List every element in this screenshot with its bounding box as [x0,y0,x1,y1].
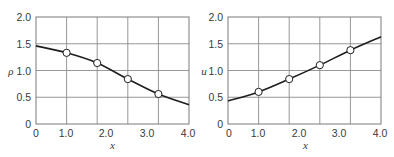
data-point-marker [316,62,323,69]
y-tick-label: 2.0 [208,11,223,23]
figure: 00.51.01.52.0ρ01.02.03.04.0x 00.51.01.52… [0,0,394,157]
data-curve [36,46,189,105]
data-point-marker [94,59,101,66]
x-axis-label: x [109,139,115,151]
data-point-marker [286,75,293,82]
u-vs-x-chart: 00.51.01.52.0u01.02.03.04.0x [201,11,387,151]
x-tick-label: 0 [226,127,232,139]
y-tick-label: 0.5 [208,91,223,103]
x-tick-label: 0 [33,127,39,139]
y-tick-label: 0 [25,118,31,130]
data-point-marker [155,90,162,97]
data-curve [228,37,381,101]
y-axis-label: ρ [7,65,13,77]
x-tick-label: 4.0 [181,127,196,139]
y-tick-label: 2.0 [16,11,31,23]
y-tick-label: 0 [217,118,223,130]
x-tick-label: 2.0 [99,127,114,139]
data-point-marker [255,88,262,95]
x-tick-label: 3.0 [140,127,155,139]
x-tick-label: 1.0 [251,127,266,139]
x-tick-label: 4.0 [373,127,388,139]
y-tick-label: 1.5 [208,38,223,50]
data-point-marker [347,47,354,54]
y-tick-label: 1.0 [16,65,31,77]
x-tick-label: 2.0 [292,127,307,139]
grid-lines [228,17,381,124]
y-tick-label: 0.5 [16,91,31,103]
x-axis-label: x [302,139,308,151]
x-tick-label: 3.0 [332,127,347,139]
y-tick-label: 1.5 [16,38,31,50]
y-tick-label: 1.0 [208,65,223,77]
data-point-marker [124,75,131,82]
data-point-marker [63,49,70,56]
y-axis-label: u [201,65,207,77]
rho-vs-x-chart: 00.51.01.52.0ρ01.02.03.04.0x [7,11,195,151]
x-tick-label: 1.0 [59,127,74,139]
